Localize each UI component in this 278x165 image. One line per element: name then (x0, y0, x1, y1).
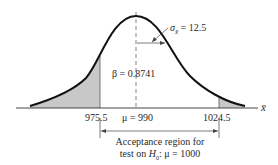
sigma-label: σx̄ = 12.5 (170, 22, 206, 38)
left-tail-shade (30, 56, 100, 108)
tick-label-mean: μ = 990 (122, 112, 153, 123)
hypothesis-value: : μ = 1000 (159, 148, 200, 159)
sigma-leader-arrowhead (152, 37, 157, 42)
sigma-value: = 12.5 (178, 22, 206, 33)
region-arrowhead-right (213, 129, 218, 133)
acceptance-region-caption-line2: test on H0: μ = 1000 (100, 148, 220, 164)
hypothesis-symbol: H (149, 148, 156, 159)
bell-curve (30, 16, 245, 106)
sigma-arrowhead-right (160, 41, 165, 45)
beta-label: β = 0.8741 (112, 68, 155, 79)
x-axis-label: x̄ (261, 102, 266, 113)
caption-text: test on (120, 148, 149, 159)
region-arrowhead-left (101, 129, 106, 133)
tick-label-975: 975.5 (85, 112, 108, 123)
tick-label-1024: 1024.5 (203, 112, 231, 123)
acceptance-region-caption-line1: Acceptance region for (100, 136, 220, 147)
